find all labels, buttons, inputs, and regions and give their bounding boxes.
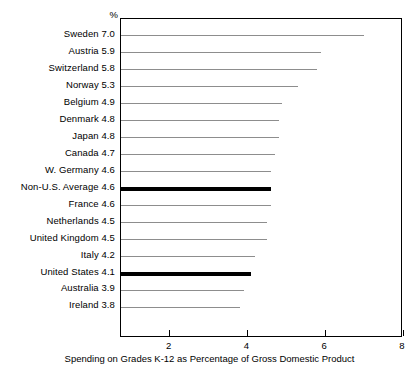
category-label: Italy 4.2 xyxy=(0,250,118,260)
category-label: Norway 5.3 xyxy=(0,80,118,90)
x-tick-mark xyxy=(247,330,248,336)
bar-japan xyxy=(121,137,279,138)
chart-caption: Spending on Grades K-12 as Percentage of… xyxy=(0,353,419,365)
plot-area xyxy=(120,18,402,337)
bar-belgium xyxy=(121,103,282,104)
category-label: W. Germany 4.6 xyxy=(0,165,118,175)
bar-non-u-s-average xyxy=(121,187,271,191)
bar-austria xyxy=(121,52,321,53)
category-label: Belgium 4.9 xyxy=(0,97,118,107)
category-label: Austria 5.9 xyxy=(0,46,118,56)
spending-bar-chart: % Sweden 7.0Austria 5.9Switzerland 5.8No… xyxy=(0,0,419,375)
percent-unit-header: % xyxy=(96,10,118,20)
bar-sweden xyxy=(121,35,364,36)
category-label: Denmark 4.8 xyxy=(0,114,118,124)
category-label: Japan 4.8 xyxy=(0,131,118,141)
x-tick-label: 2 xyxy=(159,340,179,351)
x-tick-mark xyxy=(403,330,404,336)
x-tick-mark xyxy=(169,330,170,336)
category-label: Switzerland 5.8 xyxy=(0,63,118,73)
bar-switzerland xyxy=(121,69,317,70)
category-label: France 4.6 xyxy=(0,199,118,209)
category-label: Ireland 3.8 xyxy=(0,300,118,310)
category-label: Netherlands 4.5 xyxy=(0,216,118,226)
bar-france xyxy=(121,205,271,206)
bar-netherlands xyxy=(121,222,267,223)
x-tick-label: 8 xyxy=(392,340,412,351)
category-label: Canada 4.7 xyxy=(0,148,118,158)
bar-united-states xyxy=(121,272,251,276)
category-label: Non-U.S. Average 4.6 xyxy=(0,182,118,192)
category-label: United Kingdom 4.5 xyxy=(0,233,118,243)
x-tick-label: 4 xyxy=(236,340,256,351)
bar-denmark xyxy=(121,120,279,121)
bar-canada xyxy=(121,154,275,155)
category-label: Sweden 7.0 xyxy=(0,29,118,39)
x-tick-label: 6 xyxy=(314,340,334,351)
x-tick-mark xyxy=(325,330,326,336)
bar-italy xyxy=(121,256,255,257)
bar-australia xyxy=(121,290,244,291)
bar-ireland xyxy=(121,307,240,308)
category-label: United States 4.1 xyxy=(0,267,118,277)
bar-w-germany xyxy=(121,171,271,172)
bar-united-kingdom xyxy=(121,239,267,240)
category-label: Australia 3.9 xyxy=(0,283,118,293)
bar-norway xyxy=(121,86,298,87)
